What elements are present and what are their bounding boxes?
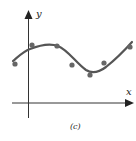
data-point <box>101 60 106 65</box>
data-point <box>87 72 92 77</box>
data-point <box>12 61 17 66</box>
data-point <box>69 62 74 67</box>
x-axis-label: x <box>126 86 132 97</box>
data-point <box>29 42 34 47</box>
chart: y x (c) <box>0 0 136 141</box>
data-point <box>54 43 59 48</box>
y-axis-arrow-icon <box>25 10 33 19</box>
x-axis-arrow-icon <box>125 99 134 107</box>
y-axis-label: y <box>35 8 42 19</box>
data-point <box>127 44 132 49</box>
chart-caption: (c) <box>70 122 81 131</box>
